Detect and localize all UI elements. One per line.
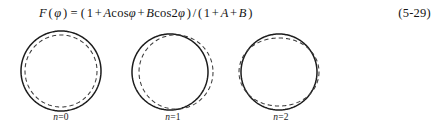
figure-caption-1: n=1	[118, 111, 228, 123]
equation-line: F(φ)=(1+Acosφ+Bcos2φ)/(1+A+B) (5-29)	[0, 3, 445, 23]
equation-plus-1: +	[93, 6, 103, 20]
figure-mode-1-drawing	[118, 24, 228, 124]
solid-circle-2	[241, 34, 317, 110]
equation-function-name: F	[39, 6, 47, 20]
equation-close-paren-den: )	[247, 6, 254, 20]
equation-close-paren-num: )	[185, 6, 192, 20]
caption-value-2: =2	[278, 112, 289, 122]
caption-value-1: =1	[170, 112, 181, 122]
equation-coefficient-b: B	[146, 6, 154, 20]
equation-plus-4: +	[229, 6, 239, 20]
equation-plus-2: +	[136, 6, 146, 20]
solid-circle-1	[132, 34, 208, 110]
equation-open-paren-den: (	[196, 6, 203, 20]
equation-denominator-a: A	[221, 6, 229, 20]
dashed-perturbed-curve-0	[25, 35, 97, 107]
equation-cos-2: cos	[154, 6, 171, 20]
caption-value-0: =0	[58, 112, 69, 122]
equation-expression: F(φ)=(1+Acosφ+Bcos2φ)/(1+A+B)	[39, 3, 254, 23]
equation-number: (5-29)	[398, 3, 431, 23]
figure-row: n=0 n=1 n=2	[0, 24, 445, 139]
solid-circle-0	[21, 31, 101, 111]
figure-mode-1: n=1	[118, 24, 228, 136]
equation-open-paren-num: (	[79, 6, 86, 20]
dashed-perturbed-curve-1	[139, 35, 213, 109]
figure-mode-0-drawing	[6, 24, 116, 124]
equation-denominator-b: B	[239, 6, 247, 20]
dashed-perturbed-curve-2	[239, 38, 319, 106]
equation-phi-term1: φ	[129, 6, 136, 20]
equation-close-paren-lhs: )	[61, 6, 68, 20]
figure-page: F(φ)=(1+Acosφ+Bcos2φ)/(1+A+B) (5-29) n=0…	[0, 0, 445, 139]
figure-mode-0: n=0	[6, 24, 116, 136]
figure-mode-2-drawing	[226, 24, 336, 124]
figure-caption-0: n=0	[6, 111, 116, 123]
equation-plus-3: +	[210, 6, 220, 20]
equation-cos-1: cos	[111, 6, 128, 20]
figure-caption-2: n=2	[226, 111, 336, 123]
figure-mode-2: n=2	[226, 24, 336, 136]
equation-equals-sign: =	[69, 6, 79, 20]
